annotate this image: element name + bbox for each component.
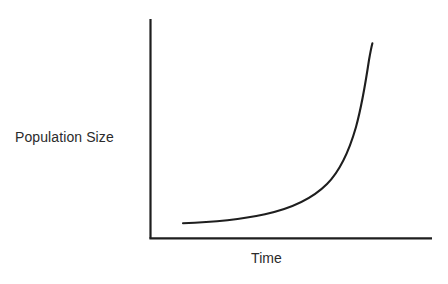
exponential-growth-curve — [183, 43, 372, 223]
y-axis-label: Population Size — [15, 130, 114, 144]
x-axis-label: Time — [251, 251, 282, 265]
exponential-growth-diagram: Population Size Time — [0, 0, 448, 284]
